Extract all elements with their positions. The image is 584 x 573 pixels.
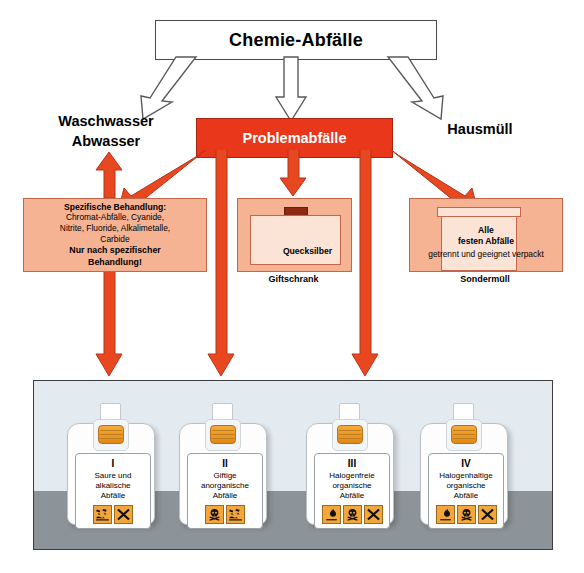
- canister-desc-line3: Abfälle: [431, 491, 501, 501]
- canister-cap-icon: [210, 425, 236, 444]
- spezifische-body-line1: Chromat-Abfälle, Cyanide,: [60, 212, 170, 223]
- canister-label: IIGiftigeanorganischeAbfälle: [187, 453, 263, 529]
- canister-cap-icon: [451, 425, 477, 444]
- canister-desc-line1: Halogenfreie: [317, 471, 387, 481]
- canister-pictograms: [431, 505, 501, 524]
- canister-label: IVHalogenhaltigeorganischeAbfälle: [428, 453, 504, 529]
- harmful-x-icon: [364, 505, 383, 524]
- canister-desc-line2: anorganische: [190, 481, 260, 491]
- canister-cap-icon: [337, 425, 363, 444]
- flammable-flame-icon: [322, 505, 341, 524]
- canister-roman: I: [78, 458, 148, 471]
- canister-desc-line1: Saure und: [78, 471, 148, 481]
- harmful-x-icon: [114, 505, 133, 524]
- toxic-skull-icon: [457, 505, 476, 524]
- canister-desc-line1: Giftige: [190, 471, 260, 481]
- canister-desc-line3: Abfälle: [78, 491, 148, 501]
- caption-giftschrank: Giftschrank: [237, 274, 350, 284]
- canister-iv[interactable]: IVHalogenhaltigeorganischeAbfälle: [420, 403, 506, 523]
- solids-subtitle: getrennt und geeignet verpackt: [410, 249, 562, 259]
- solids-drum-line1: Alle: [410, 225, 562, 236]
- box-giftschrank: Quecksilber: [237, 198, 352, 272]
- spezifische-body-line2: Nitrite, Fluoride, Alkalimetalle,: [60, 223, 170, 234]
- canister-cap-icon: [98, 425, 124, 444]
- canister-label: ISaure undalkalischeAbfälle: [75, 453, 151, 529]
- canister-panel: ISaure undalkalischeAbfälleIIGiftigeanor…: [33, 380, 553, 550]
- canister-desc-line1: Halogenhaltige: [431, 471, 501, 481]
- canister-desc-line2: alkalische: [78, 481, 148, 491]
- canister-desc-line3: Abfälle: [317, 491, 387, 501]
- corrosive-icon: [226, 505, 245, 524]
- red-arrow-up-waschwasser: [96, 152, 122, 198]
- canister-ii[interactable]: IIGiftigeanorganischeAbfälle: [179, 403, 265, 523]
- canister-desc-line3: Abfälle: [190, 491, 260, 501]
- red-arrow-long-left: [208, 150, 234, 376]
- title-box: Chemie-Abfälle: [155, 20, 437, 60]
- label-abwasser: Abwasser: [36, 132, 176, 152]
- problemabfaelle-label: Problemabfälle: [243, 130, 347, 146]
- mercury-container-label: Quecksilber: [251, 246, 364, 256]
- canister-desc-line2: organische: [317, 481, 387, 491]
- red-arrow-to-giftschrank: [280, 150, 306, 196]
- label-hausmuell: Hausmüll: [415, 120, 545, 140]
- spezifische-note-line2: Behandlung!: [69, 257, 160, 268]
- box-sondermuell: Alle festen Abfälle getrennt und geeigne…: [409, 198, 563, 272]
- flammable-flame-icon: [436, 505, 455, 524]
- canister-roman: IV: [431, 458, 501, 471]
- box-spezifische-behandlung: Spezifische Behandlung: Chromat-Abfälle,…: [23, 198, 207, 272]
- canister-pictograms: [190, 505, 260, 524]
- toxic-skull-icon: [205, 505, 224, 524]
- mercury-container: Quecksilber: [250, 215, 341, 265]
- canister-pictograms: [317, 505, 387, 524]
- canister-label: IIIHalogenfreieorganischeAbfälle: [314, 453, 390, 529]
- corrosive-icon: [93, 505, 112, 524]
- harmful-x-icon: [478, 505, 497, 524]
- label-waschwasser: Waschwasser: [36, 112, 176, 132]
- spezifische-note-line1: Nur nach spezifischer: [69, 245, 160, 256]
- spezifische-heading: Spezifische Behandlung:: [64, 202, 166, 212]
- canister-pictograms: [78, 505, 148, 524]
- canister-iii[interactable]: IIIHalogenfreieorganischeAbfälle: [306, 403, 392, 523]
- canister-roman: III: [317, 458, 387, 471]
- label-waschwasser-abwasser: Waschwasser Abwasser: [36, 112, 176, 151]
- waste-drum-lid-icon: [437, 207, 521, 217]
- red-arrow-long-right: [352, 150, 378, 376]
- canister-desc-line2: organische: [431, 481, 501, 491]
- canister-i[interactable]: ISaure undalkalischeAbfälle: [67, 403, 153, 523]
- spezifische-body-line3: Carbide: [60, 234, 170, 245]
- canister-roman: II: [190, 458, 260, 471]
- page-title: Chemie-Abfälle: [229, 30, 363, 51]
- outline-arrow-left: [141, 57, 196, 119]
- toxic-skull-icon: [343, 505, 362, 524]
- caption-sondermuell: Sondermüll: [409, 274, 561, 284]
- outline-arrow-center: [276, 57, 306, 121]
- outline-arrow-right: [388, 57, 443, 119]
- solids-drum-line2: festen Abfälle: [410, 236, 562, 247]
- solids-drum-text: Alle festen Abfälle: [410, 225, 562, 247]
